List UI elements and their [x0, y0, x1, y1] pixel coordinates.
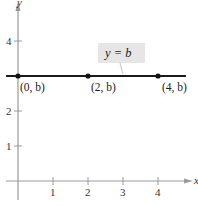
point-label: (2, b): [91, 81, 116, 94]
x-tick-label: 2: [85, 186, 91, 198]
x-axis-label: x: [193, 174, 198, 186]
y-tick-label: 4: [6, 35, 12, 47]
point-4-b: [155, 73, 160, 78]
x-tick-label: 1: [50, 186, 56, 198]
point-label: (0, b): [20, 81, 45, 94]
equation-label: y = b: [103, 46, 131, 60]
y-tick-label: 2: [6, 105, 12, 117]
point-label: (4, b): [162, 81, 187, 94]
chart-canvas: y x 1 2 3 4 1 2 4 y = b (0, b) (2, b) (4…: [0, 0, 198, 206]
x-tick-label: 3: [120, 186, 126, 198]
equation-callout: y = b: [98, 43, 145, 74]
y-ticks: 1 2 4: [6, 35, 22, 152]
x-ticks: 1 2 3 4: [50, 177, 161, 198]
y-tick-label: 1: [6, 140, 12, 152]
point-0-b: [15, 73, 20, 78]
point-2-b: [85, 73, 90, 78]
x-tick-label: 4: [155, 186, 161, 198]
x-axis-arrow-icon: [184, 179, 193, 184]
y-axis-label: y: [16, 0, 22, 8]
